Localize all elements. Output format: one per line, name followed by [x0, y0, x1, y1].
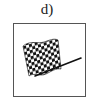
checkered-flag-icon [14, 24, 85, 96]
figure-label: d) [0, 1, 94, 17]
icon-frame [13, 23, 86, 97]
